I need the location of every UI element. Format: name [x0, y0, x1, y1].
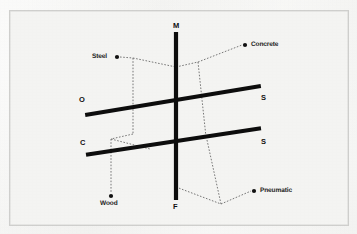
dash-right-vertical-lower	[207, 140, 221, 204]
dash-upperleft-vertex-to-m	[133, 58, 176, 67]
axis-diagonal-cs	[86, 127, 261, 156]
data-point-markers	[109, 43, 256, 198]
diagram-page: M F O C S S Steel Concrete Wood Pneumati…	[0, 0, 357, 234]
axis-label-s-upper: S	[261, 94, 266, 102]
point-label-wood: Wood	[100, 201, 118, 208]
dashed-construction-lines	[111, 45, 251, 204]
dash-upperright-vertex-to-concrete	[198, 45, 242, 62]
dash-lower-left-top-edge	[111, 134, 133, 139]
marker-pneumatic	[252, 189, 256, 193]
axis-label-f: F	[173, 203, 178, 211]
axis-label-o: O	[79, 96, 85, 104]
axis-diagonal-os	[85, 86, 261, 115]
dash-m-to-upperright-vertex	[176, 62, 198, 67]
axis-label-c: C	[80, 139, 85, 147]
dash-bottom-vertex-to-pneumatic	[221, 191, 251, 204]
point-label-concrete: Concrete	[251, 42, 278, 49]
marker-steel	[115, 55, 119, 59]
marker-concrete	[243, 43, 247, 47]
axis-label-s-lower: S	[261, 138, 266, 146]
point-label-pneumatic: Pneumatic	[260, 188, 292, 195]
axis-label-m: M	[173, 22, 179, 30]
axis-lines	[85, 32, 261, 200]
marker-wood	[109, 194, 113, 198]
axonometric-plot	[0, 0, 357, 234]
point-label-steel: Steel	[92, 54, 107, 61]
dash-right-vertical	[198, 62, 206, 137]
dash-steel-to-vertex	[120, 57, 133, 58]
dash-f-to-bottom-vertex	[176, 187, 221, 204]
